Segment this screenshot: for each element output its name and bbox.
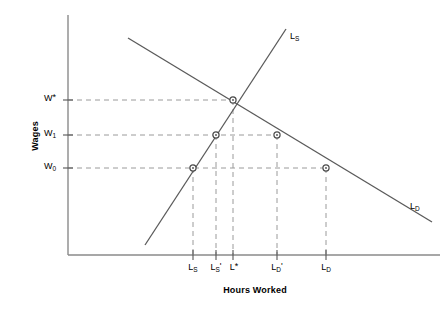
- data-points: [190, 97, 329, 171]
- point-w0-ld-dot: [325, 167, 327, 169]
- point-w1-ld-prime-dot: [276, 134, 278, 136]
- hours-guide-lines: [193, 100, 326, 255]
- y-tick-label-w-zero-sub: 0: [52, 165, 56, 172]
- y-tick-label-w-star-sup: *: [52, 92, 56, 102]
- point-equilibrium-dot: [232, 99, 234, 101]
- x-tick-label-l-star-sup: *: [235, 261, 239, 271]
- labor-market-chart: Wages Hours Worked W* W1 W0 LS LS' L* LD…: [0, 0, 444, 312]
- x-tick-label-ld-prime-sup: ': [281, 261, 283, 271]
- y-tick-label-w-star: W*: [22, 93, 56, 103]
- supply-curve-label: LS: [290, 31, 299, 41]
- x-tick-label-ld-prime: LD': [260, 262, 294, 272]
- demand-curve: [128, 38, 432, 222]
- x-tick-label-ld: LD: [309, 262, 343, 272]
- y-tick-label-w-zero: W0: [22, 161, 56, 171]
- y-tick-label-w-one: W1: [22, 128, 56, 138]
- x-tick-label-l-star: L*: [217, 262, 251, 272]
- y-tick-label-w-one-sub: 1: [52, 132, 56, 139]
- demand-curve-label-sub: D: [415, 205, 420, 212]
- x-tick-label-ld-sub: D: [326, 266, 331, 273]
- supply-curve-label-sub: S: [295, 35, 299, 42]
- point-w1-ls-prime-dot: [215, 134, 217, 136]
- demand-curve-label: LD: [410, 201, 420, 211]
- x-axis-title: Hours Worked: [155, 285, 355, 295]
- x-tick-label-ls-sub: S: [193, 266, 197, 273]
- x-tick-label-l-star-base: L: [230, 262, 235, 272]
- point-w0-ls-dot: [192, 167, 194, 169]
